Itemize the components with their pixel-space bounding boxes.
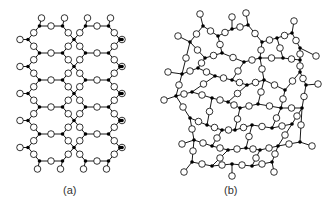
oxygen-atom [271,82,278,89]
oxygen-atom [217,97,224,104]
silicon-atom [61,132,65,136]
silicon-atom [84,132,88,136]
silicon-atom [61,159,65,163]
oxygen-atom [111,124,118,131]
oxygen-atom [193,31,200,38]
oxygen-atom [65,56,72,63]
oxygen-atom [234,146,241,153]
silicon-atom [190,160,194,164]
oxygen-atom [195,118,202,125]
oxygen-atom [111,56,118,63]
oxygen-atom [240,124,247,131]
silicon-atom [244,146,248,150]
silicon-atom [26,38,30,42]
oxygen-atom [288,105,295,112]
oxygen-atom [30,124,37,131]
oxygen-atom [80,166,87,173]
silicon-atom [290,31,294,35]
silicon-atom [242,60,246,64]
oxygen-atom [313,53,320,60]
silicon-atom [180,72,184,76]
oxygen-atom [103,166,110,173]
oxygen-atom [161,97,168,104]
silicon-atom [84,51,88,55]
silicon-atom [26,119,30,123]
oxygen-atom [38,15,45,22]
oxygen-atom [30,29,37,36]
oxygen-atom [252,30,259,37]
oxygen-atom [17,63,24,70]
oxygen-atom [179,141,186,148]
oxygen-atom [243,10,250,17]
silicon-atom [238,106,242,110]
oxygen-atom [282,132,289,139]
oxygen-atom [111,97,118,104]
oxygen-atom [76,56,83,63]
oxygen-atom [30,43,37,50]
oxygen-atom [76,43,83,50]
silicon-atom [233,128,237,132]
oxygen-atom [198,60,205,67]
silicon-atom [203,56,207,60]
oxygen-atom [249,57,256,64]
silicon-atom [72,65,76,69]
oxygen-atom [214,135,221,142]
oxygen-atom [183,55,190,62]
silicon-atom [26,92,30,96]
oxygen-atom [111,137,118,144]
silicon-atom [118,92,122,96]
silicon-atom [118,146,122,150]
silicon-atom [279,106,283,110]
oxygen-atom [94,77,101,84]
silicon-atom [61,51,65,55]
silicon-atom [213,74,217,78]
silicon-atom [226,148,230,152]
oxygen-atom [94,50,101,57]
silicon-atom [118,38,122,42]
oxygen-atom [252,79,259,86]
silicon-atom [246,23,250,27]
silicon-atom [258,148,262,152]
silicon-atom [226,100,230,104]
oxygen-atom [250,146,257,153]
silicon-atom [72,38,76,42]
silicon-atom [188,116,192,120]
oxygen-atom [34,166,41,173]
oxygen-atom [30,110,37,117]
silicon-atom [216,34,220,38]
oxygen-atom [239,162,246,169]
oxygen-atom [246,103,253,110]
oxygen-atom [194,47,201,54]
silicon-atom [118,65,122,69]
silicon-atom [275,36,279,40]
oxygen-atom [17,117,24,124]
oxygen-atom [30,97,37,104]
oxygen-atom [298,122,305,129]
silicon-atom [61,24,65,28]
silicon-atom [196,66,200,70]
silicon-atom [38,51,42,55]
oxygen-atom [65,83,72,90]
oxygen-atom [197,11,204,18]
silicon-atom [84,105,88,109]
silicon-atom [298,46,302,50]
silicon-atom [61,105,65,109]
oxygen-atom [65,110,72,117]
oxygen-atom [107,15,114,22]
oxygen-atom [76,83,83,90]
oxygen-atom [203,69,210,76]
oxygen-atom [165,69,172,76]
silicon-atom [220,128,224,132]
oxygen-atom [231,102,238,109]
silicon-atom [300,106,304,110]
oxygen-atom [291,18,298,25]
oxygen-atom [111,70,118,77]
silicon-atom [250,164,254,168]
oxygen-atom [61,15,68,22]
oxygen-atom [65,124,72,131]
silicon-atom [230,162,234,166]
oxygen-atom [175,33,182,40]
silicon-atom [210,96,214,100]
oxygen-atom [217,41,224,48]
silicon-atom [107,105,111,109]
